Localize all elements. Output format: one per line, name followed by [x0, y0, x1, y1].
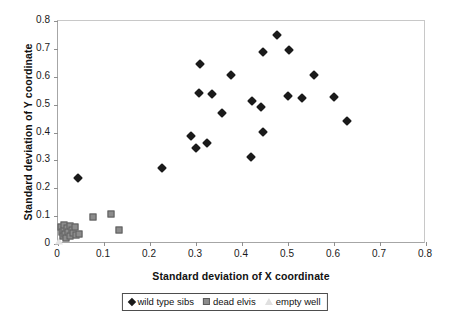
- data-point-wild-type-sibs: [194, 88, 204, 98]
- data-point-wild-type-sibs: [186, 131, 196, 141]
- y-tick-label: 0: [12, 237, 50, 248]
- data-point-wild-type-sibs: [256, 102, 266, 112]
- plot-area: [57, 20, 425, 243]
- square-marker-icon: [203, 298, 210, 305]
- x-tick-label: 0.2: [129, 248, 169, 259]
- data-point-dead-elvis: [75, 231, 82, 238]
- data-point-wild-type-sibs: [73, 173, 83, 183]
- data-point-wild-type-sibs: [202, 138, 212, 148]
- legend-item-label: dead elvis: [213, 296, 256, 307]
- y-tick-label: 0.5: [12, 98, 50, 109]
- scatter-chart: Standard deviation of Y coordinate 00.10…: [0, 0, 449, 323]
- data-point-wild-type-sibs: [226, 70, 236, 80]
- y-tick-label: 0.6: [12, 70, 50, 81]
- diamond-marker-icon: [127, 297, 135, 305]
- x-tick-label: 0.7: [359, 248, 399, 259]
- data-point-wild-type-sibs: [284, 45, 294, 55]
- y-tick-mark: [54, 105, 58, 106]
- x-tick-label: 0.1: [83, 248, 123, 259]
- data-point-wild-type-sibs: [195, 59, 205, 69]
- x-tick-label: 0.5: [267, 248, 307, 259]
- y-tick-label: 0.7: [12, 42, 50, 53]
- x-tick-label: 0.6: [313, 248, 353, 259]
- legend-item-dead-elvis[interactable]: dead elvis: [203, 296, 256, 307]
- y-tick-label: 0.3: [12, 153, 50, 164]
- data-point-wild-type-sibs: [258, 127, 268, 137]
- y-tick-mark: [54, 77, 58, 78]
- data-point-wild-type-sibs: [247, 96, 257, 106]
- y-tick-mark: [54, 216, 58, 217]
- y-tick-mark: [54, 49, 58, 50]
- chart-legend: wild type sibsdead elvisempty well: [121, 293, 327, 311]
- y-tick-mark: [54, 188, 58, 189]
- data-point-wild-type-sibs: [309, 70, 319, 80]
- y-tick-label: 0.1: [12, 209, 50, 220]
- legend-item-label: wild type sibs: [137, 296, 194, 307]
- legend-item-wild-type-sibs[interactable]: wild type sibs: [128, 296, 194, 307]
- legend-item-empty-well[interactable]: empty well: [265, 296, 321, 307]
- x-tick-mark: [380, 242, 381, 246]
- y-tick-label: 0.8: [12, 14, 50, 25]
- x-tick-label: 0.4: [221, 248, 261, 259]
- data-point-wild-type-sibs: [217, 108, 227, 118]
- data-point-wild-type-sibs: [342, 116, 352, 126]
- triangle-marker-icon: [265, 298, 273, 305]
- data-point-dead-elvis: [115, 227, 122, 234]
- data-point-dead-elvis: [90, 213, 97, 220]
- x-axis-title: Standard deviation of X coordinate: [57, 270, 425, 282]
- data-point-wild-type-sibs: [329, 92, 339, 102]
- y-tick-mark: [54, 160, 58, 161]
- data-point-wild-type-sibs: [157, 164, 167, 174]
- x-tick-mark: [242, 242, 243, 246]
- x-tick-label: 0: [37, 248, 77, 259]
- data-point-wild-type-sibs: [191, 143, 201, 153]
- y-tick-mark: [54, 21, 58, 22]
- data-point-wild-type-sibs: [283, 91, 293, 101]
- y-tick-mark: [54, 133, 58, 134]
- x-tick-label: 0.8: [405, 248, 445, 259]
- legend-item-label: empty well: [276, 296, 321, 307]
- x-tick-mark: [196, 242, 197, 246]
- x-tick-mark: [150, 242, 151, 246]
- data-point-wild-type-sibs: [258, 47, 268, 57]
- data-point-wild-type-sibs: [297, 93, 307, 103]
- x-tick-mark: [104, 242, 105, 246]
- data-point-wild-type-sibs: [207, 89, 217, 99]
- x-tick-mark: [426, 242, 427, 246]
- data-point-wild-type-sibs: [272, 30, 282, 40]
- x-tick-mark: [334, 242, 335, 246]
- x-tick-label: 0.3: [175, 248, 215, 259]
- x-tick-mark: [288, 242, 289, 246]
- y-tick-label: 0.2: [12, 181, 50, 192]
- y-tick-label: 0.4: [12, 126, 50, 137]
- data-point-dead-elvis: [71, 224, 78, 231]
- data-point-wild-type-sibs: [246, 152, 256, 162]
- data-point-dead-elvis: [107, 211, 114, 218]
